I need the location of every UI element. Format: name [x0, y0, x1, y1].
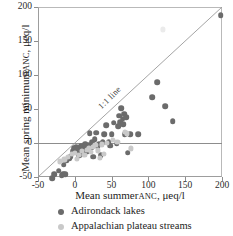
data-point [101, 131, 107, 137]
data-point [104, 123, 110, 129]
y-tick-mark [34, 177, 38, 178]
scatter-plot-figure: Mean spring minimumANC, μeq/l 1:1 line -… [0, 0, 233, 236]
data-point [92, 136, 98, 142]
legend-item-label: Adirondack lakes [71, 206, 145, 217]
data-point [135, 131, 141, 137]
y-tick-label: 200 [18, 2, 32, 12]
data-point [93, 130, 99, 136]
y-axis-title-anc: ANC [21, 52, 31, 71]
y-tick-mark [34, 7, 38, 8]
data-point [87, 131, 93, 137]
data-point [170, 118, 176, 124]
x-axis-title-anc: ANC [138, 191, 157, 201]
chart-legend: Adirondack lakes Appalachian plateau str… [58, 204, 192, 234]
data-point [62, 171, 68, 177]
x-axis-title-main: Mean summer [75, 189, 138, 201]
plot-area: 1:1 line -50050100150200 -50050100150200 [38, 7, 222, 177]
y-tick-label: 0 [27, 138, 32, 148]
data-point [90, 154, 96, 160]
data-point [109, 131, 115, 137]
legend-item-adirondack-lakes: Adirondack lakes [58, 204, 192, 219]
data-point [121, 121, 127, 127]
x-axis-title: Mean summerANC, μeq/l [38, 189, 222, 201]
y-tick-label: 50 [23, 104, 33, 114]
y-tick-mark [34, 41, 38, 42]
y-tick-mark [34, 109, 38, 110]
legend-marker-icon [58, 224, 64, 230]
data-point [163, 103, 169, 109]
x-axis-title-units: , μeq/l [157, 189, 185, 201]
y-tick-label: -50 [19, 172, 32, 182]
y-tick-mark [34, 75, 38, 76]
y-tick-label: 150 [18, 36, 32, 46]
data-point [124, 114, 130, 120]
data-point [218, 12, 224, 18]
legend-marker-icon [58, 209, 64, 215]
zero-reference-line [38, 143, 222, 144]
legend-item-label: Appalachian plateau streams [71, 221, 192, 232]
data-point [149, 95, 155, 101]
y-axis-title-main: Mean spring minimum [19, 71, 31, 172]
data-point [154, 80, 160, 86]
y-tick-mark [34, 143, 38, 144]
y-tick-label: 100 [18, 70, 32, 80]
legend-item-appalachian-plateau-streams: Appalachian plateau streams [58, 219, 192, 234]
